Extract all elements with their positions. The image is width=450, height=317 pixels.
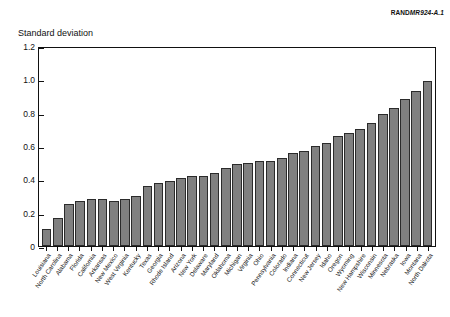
bar-cell (310, 48, 321, 246)
bar (143, 186, 153, 246)
rand-credit-line: RANDMR924-A.1 (391, 9, 444, 16)
bar-cell (41, 48, 52, 246)
bar-cell (131, 48, 142, 246)
bar (75, 201, 85, 246)
bar-cell (97, 48, 108, 246)
bar-cell (198, 48, 209, 246)
y-axis-tick-label: 0 (30, 242, 35, 252)
y-axis-tick-label: 0.2 (23, 209, 35, 219)
bar-cell (377, 48, 388, 246)
bar (344, 133, 354, 246)
bar (423, 81, 433, 246)
bar-series (39, 48, 435, 246)
bar (221, 168, 231, 246)
bar-cell (388, 48, 399, 246)
bar (98, 199, 108, 246)
bar (255, 161, 265, 246)
bar-cell (63, 48, 74, 246)
bar-cell (142, 48, 153, 246)
bar-cell (164, 48, 175, 246)
bar (154, 183, 164, 246)
bar (87, 199, 97, 246)
rand-brand-label: RAND (391, 9, 410, 16)
bar-cell (332, 48, 343, 246)
bar (322, 143, 332, 246)
bar-cell (411, 48, 422, 246)
y-axis-tick-label: 1.0 (23, 75, 35, 85)
bar-cell (254, 48, 265, 246)
bar-cell (243, 48, 254, 246)
bar-cell (265, 48, 276, 246)
y-axis-title: Standard deviation (18, 28, 93, 38)
bar-cell (209, 48, 220, 246)
bar-cell (86, 48, 97, 246)
bar (411, 91, 421, 246)
rand-document-code: MR924-A.1 (410, 9, 444, 16)
bar (367, 123, 377, 246)
bar (232, 164, 242, 246)
bar-cell (287, 48, 298, 246)
bar-cell (299, 48, 310, 246)
bar (53, 218, 63, 246)
bar-cell (175, 48, 186, 246)
bar (131, 196, 141, 246)
bar (243, 163, 253, 246)
bar (176, 178, 186, 246)
bar-cell (355, 48, 366, 246)
bar-cell (231, 48, 242, 246)
x-axis-label-cell: North Dakota (423, 251, 434, 317)
x-axis-label-group: LouisianaNorth CarolinaAlabamaFloridaCal… (38, 251, 436, 317)
y-axis-tick-label: 0.6 (23, 142, 35, 152)
bar (42, 229, 52, 246)
bar-cell (75, 48, 86, 246)
figure-bar-chart: RANDMR924-A.1 Standard deviation 00.20.4… (0, 0, 450, 317)
bar (400, 99, 410, 246)
bar (277, 158, 287, 246)
bar-cell (366, 48, 377, 246)
bar (389, 108, 399, 246)
bar-cell (153, 48, 164, 246)
bar (165, 181, 175, 246)
bar-cell (343, 48, 354, 246)
y-axis-tick-label: 0.4 (23, 175, 35, 185)
bar-cell (400, 48, 411, 246)
bar (333, 136, 343, 246)
bar (266, 161, 276, 246)
bar (288, 153, 298, 246)
plot-area: 00.20.40.60.81.01.2 (38, 47, 436, 247)
y-axis-tick-label: 0.8 (23, 109, 35, 119)
bar-cell (276, 48, 287, 246)
bar-cell (119, 48, 130, 246)
bar (120, 199, 130, 246)
bar (299, 151, 309, 246)
bar-cell (187, 48, 198, 246)
bar (187, 176, 197, 246)
bar (311, 146, 321, 246)
bar-cell (52, 48, 63, 246)
bar (378, 114, 388, 246)
bar-cell (220, 48, 231, 246)
bar (109, 201, 119, 246)
bar (355, 129, 365, 246)
y-axis-tick-label: 1.2 (23, 42, 35, 52)
bar-cell (422, 48, 433, 246)
bar-cell (108, 48, 119, 246)
bar (210, 173, 220, 246)
bar (64, 204, 74, 246)
bar-cell (321, 48, 332, 246)
bar (199, 176, 209, 246)
